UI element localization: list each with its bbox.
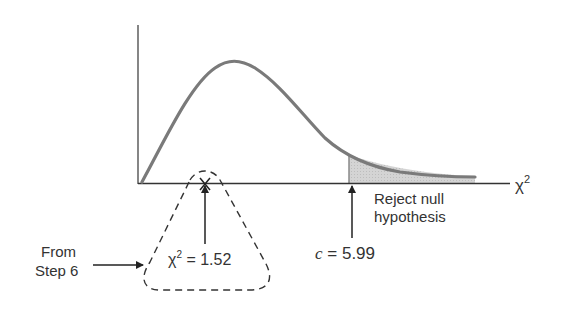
rejection-region — [349, 155, 475, 183]
density-curve — [142, 61, 475, 182]
rejection-label-line2: hypothesis — [374, 208, 446, 225]
source-note-line1: From — [41, 243, 76, 260]
dashed-triangle-enclosure — [144, 171, 270, 290]
x-axis-label: χ2 — [515, 173, 530, 195]
rejection-label-line1: Reject null — [374, 190, 444, 207]
chi-square-chart: χ2 χ2 = 1.52 From Step 6 c = 5.99 Reject… — [0, 0, 564, 311]
source-note-line2: Step 6 — [35, 262, 78, 279]
critical-value-label: c = 5.99 — [315, 244, 375, 263]
test-statistic-label: χ2 = 1.52 — [168, 249, 231, 268]
